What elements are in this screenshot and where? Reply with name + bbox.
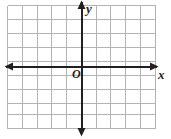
coordinate-plane-svg: y x O	[0, 0, 171, 139]
x-axis-label: x	[157, 67, 165, 82]
y-axis-label: y	[84, 1, 92, 16]
coordinate-plane-figure: y x O	[0, 0, 171, 139]
origin-label: O	[72, 67, 81, 81]
figure-background	[0, 0, 171, 139]
